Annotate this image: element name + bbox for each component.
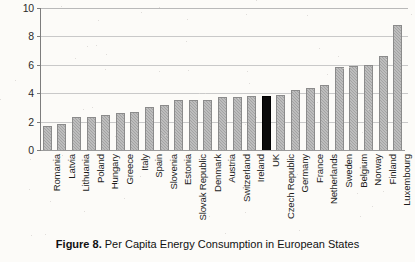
scan-speckle: [411, 14, 412, 15]
scan-speckle: [327, 74, 328, 75]
scan-speckle: [391, 184, 392, 185]
scan-speckle: [346, 175, 347, 176]
x-axis-label-sweden: Sweden: [343, 154, 354, 188]
scan-speckle: [0, 99, 1, 100]
y-axis-tick-label: 2: [8, 116, 34, 128]
x-axis-label-lithuania: Lithuania: [80, 154, 91, 192]
x-axis-label-belgium: Belgium: [358, 154, 369, 188]
bar-slot: [291, 8, 300, 150]
bar-norway[interactable]: [364, 65, 373, 150]
scan-speckle: [256, 0, 257, 1]
bar-latvia[interactable]: [57, 124, 66, 150]
x-axis-label-finland: Finland: [387, 154, 398, 184]
x-axis-label-denmark: Denmark: [212, 154, 223, 192]
scan-speckle: [338, 56, 339, 57]
bar-germany[interactable]: [291, 90, 300, 150]
scan-speckle: [368, 109, 369, 110]
bar-slot: [218, 8, 227, 150]
bar-hungary[interactable]: [101, 115, 110, 151]
figure-caption-text: Per Capita Energy Consumption in Europea…: [105, 238, 359, 250]
bar-sweden[interactable]: [335, 67, 344, 150]
scan-speckle: [92, 107, 93, 108]
scan-speckle: [159, 71, 160, 72]
scan-speckle: [61, 6, 62, 7]
scan-speckle: [357, 193, 358, 194]
bar-spain[interactable]: [145, 107, 154, 150]
bar-slot: [43, 8, 52, 150]
scan-speckle: [245, 212, 246, 213]
y-axis-tick-mark: [37, 150, 41, 151]
scan-speckle: [45, 234, 46, 235]
bar-denmark[interactable]: [203, 100, 212, 150]
bar-slot: [174, 8, 183, 150]
scan-speckle: [225, 233, 226, 234]
x-axis-label-germany: Germany: [299, 154, 310, 192]
scan-speckle: [372, 206, 373, 207]
scan-speckle: [117, 183, 118, 184]
y-axis-tick-label: 8: [8, 30, 34, 42]
scan-speckle: [297, 174, 298, 175]
x-axis-label-slovak-republic: Slovak Republic: [197, 154, 208, 221]
bar-slovak-republic[interactable]: [189, 100, 198, 150]
scan-speckle: [307, 15, 308, 16]
bar-greece[interactable]: [116, 113, 125, 150]
bar-slot: [335, 8, 344, 150]
x-axis-label-slovenia: Slovenia: [168, 154, 179, 190]
figure-container: 0246810 Per Capita TPES, GJ/year Romania…: [0, 0, 415, 262]
scan-speckle: [205, 93, 206, 94]
scan-speckle: [297, 139, 298, 140]
scan-speckle: [246, 14, 247, 15]
bar-luxembourg[interactable]: [393, 25, 402, 150]
scan-speckle: [56, 156, 57, 157]
scan-speckle: [299, 230, 300, 231]
bar-uk[interactable]: [262, 96, 271, 150]
scan-speckle: [343, 68, 344, 69]
y-axis-tick-label: 4: [8, 87, 34, 99]
bar-belgium[interactable]: [349, 66, 358, 150]
x-axis-labels-group: RomaniaLatviaLithuaniaPolandHungaryGreec…: [40, 152, 405, 230]
scan-speckle: [325, 120, 326, 121]
bar-italy[interactable]: [130, 112, 139, 150]
bar-slot: [364, 8, 373, 150]
bar-slot: [233, 8, 242, 150]
bar-netherlands[interactable]: [320, 85, 329, 150]
bar-estonia[interactable]: [174, 100, 183, 150]
y-axis-tick-label: 10: [8, 2, 34, 14]
scan-speckle: [50, 201, 51, 202]
bar-slot: [72, 8, 81, 150]
scan-speckle: [87, 46, 88, 47]
scan-speckle: [250, 146, 251, 147]
bar-slot: [393, 8, 402, 150]
scan-speckle: [187, 19, 188, 20]
scan-speckle: [165, 135, 166, 136]
scan-speckle: [362, 132, 363, 133]
bar-france[interactable]: [306, 88, 315, 150]
x-axis-label-netherlands: Netherlands: [328, 154, 339, 204]
bars-group: [40, 8, 405, 150]
x-axis-label-france: France: [314, 154, 325, 183]
bar-slot: [320, 8, 329, 150]
bar-czech-republic[interactable]: [276, 95, 285, 150]
scan-speckle: [106, 54, 107, 55]
bar-slot: [262, 8, 271, 150]
scan-speckle: [124, 198, 125, 199]
scan-speckle: [141, 12, 142, 13]
bar-finland[interactable]: [379, 56, 388, 150]
scan-speckle: [278, 125, 279, 126]
bar-lithuania[interactable]: [72, 117, 81, 150]
bar-slovenia[interactable]: [160, 105, 169, 150]
bar-switzerland[interactable]: [233, 97, 242, 150]
bar-slot: [57, 8, 66, 150]
x-axis-label-estonia: Estonia: [182, 154, 193, 185]
bar-austria[interactable]: [218, 97, 227, 150]
bar-ireland[interactable]: [247, 96, 256, 150]
scan-speckle: [249, 83, 250, 84]
scan-speckle: [161, 138, 162, 139]
x-axis-label-latvia: Latvia: [66, 154, 77, 179]
bar-poland[interactable]: [87, 117, 96, 150]
bar-romania[interactable]: [43, 126, 52, 150]
scan-speckle: [15, 80, 16, 81]
bar-slot: [87, 8, 96, 150]
scan-speckle: [386, 59, 387, 60]
scan-speckle: [188, 70, 189, 71]
